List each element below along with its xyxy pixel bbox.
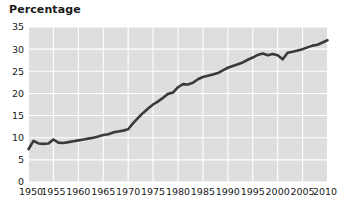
x-tick-label-1970: 1970 bbox=[116, 186, 140, 197]
x-tick-label-1980: 1980 bbox=[166, 186, 190, 197]
x-tick-label-1960: 1960 bbox=[66, 186, 90, 197]
x-tick-label-1975: 1975 bbox=[141, 186, 165, 197]
y-tick-label-10: 10 bbox=[12, 132, 24, 143]
x-tick-label-1965: 1965 bbox=[91, 186, 115, 197]
x-tick-label-2005: 2005 bbox=[290, 186, 314, 197]
y-tick-label-5: 5 bbox=[18, 154, 24, 165]
x-tick-label-2010: 2010 bbox=[313, 186, 337, 197]
x-tick-label-1955: 1955 bbox=[41, 186, 65, 197]
x-tick-label-1985: 1985 bbox=[191, 186, 215, 197]
y-tick-label-15: 15 bbox=[12, 110, 24, 121]
line-chart-svg: 05101520253035 1950195519601965197019751… bbox=[0, 0, 343, 205]
y-tick-label-30: 30 bbox=[12, 44, 24, 55]
x-tick-label-1990: 1990 bbox=[216, 186, 240, 197]
x-tick-label-2000: 2000 bbox=[266, 186, 290, 197]
y-tick-label-25: 25 bbox=[12, 66, 24, 77]
y-axis-tick-labels: 05101520253035 bbox=[12, 21, 24, 187]
x-tick-label-1950: 1950 bbox=[19, 186, 43, 197]
plot-area: 05101520253035 1950195519601965197019751… bbox=[0, 0, 343, 205]
y-tick-label-20: 20 bbox=[12, 88, 24, 99]
chart-figure: Percentage 05101520253035 19501955196019… bbox=[0, 0, 343, 205]
x-axis-tick-labels: 1950195519601965197019751980198519901995… bbox=[19, 186, 337, 197]
y-tick-label-35: 35 bbox=[12, 21, 24, 32]
x-tick-label-1995: 1995 bbox=[241, 186, 265, 197]
